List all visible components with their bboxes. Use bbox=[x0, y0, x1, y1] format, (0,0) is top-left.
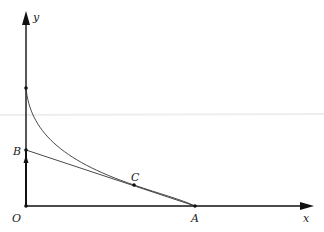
vector-ob-arrow-icon bbox=[24, 155, 29, 163]
diagram-canvas: y x O A B C bbox=[0, 0, 324, 232]
point-b-label: B bbox=[12, 145, 21, 158]
x-axis-label: x bbox=[303, 212, 310, 225]
line-ba bbox=[26, 150, 195, 206]
curve bbox=[26, 88, 195, 206]
y-axis-arrow-icon bbox=[22, 11, 30, 25]
y-axis-label: y bbox=[32, 11, 40, 24]
point-curve-start bbox=[24, 86, 28, 90]
origin-label: O bbox=[12, 212, 21, 225]
point-a-label: A bbox=[190, 212, 199, 225]
point-a bbox=[193, 204, 197, 208]
faint-line bbox=[0, 114, 324, 115]
x-axis-arrow-icon bbox=[300, 202, 314, 210]
point-c-label: C bbox=[131, 171, 140, 184]
point-b bbox=[24, 148, 28, 152]
point-o bbox=[24, 204, 28, 208]
